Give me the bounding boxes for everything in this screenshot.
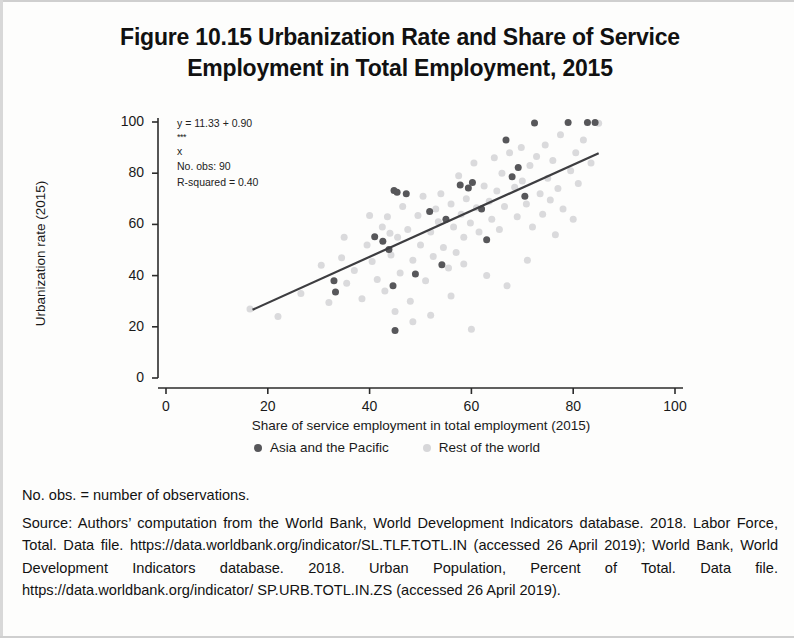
chart-container: Urbanization rate (2015) Share of servic… [0, 96, 794, 486]
data-point [445, 264, 452, 271]
data-point [427, 312, 434, 319]
regression-equation-suffix: x [177, 144, 258, 159]
data-point [325, 299, 332, 306]
data-point [570, 216, 577, 223]
data-point [417, 241, 424, 248]
data-point [409, 318, 416, 325]
data-point [588, 159, 595, 166]
data-point [483, 236, 490, 243]
x-tick-label: 80 [553, 398, 593, 414]
data-point [392, 308, 399, 315]
observations-count: No. obs: 90 [177, 159, 258, 174]
data-point [390, 282, 397, 289]
data-point [318, 262, 325, 269]
data-point [565, 119, 572, 126]
data-point [422, 277, 429, 284]
regression-equation: y = 11.33 + 0.90***x [177, 116, 258, 159]
data-point [420, 193, 427, 200]
data-point [519, 177, 526, 184]
data-point [386, 230, 393, 237]
data-point [403, 190, 410, 197]
data-point [580, 136, 587, 143]
data-point [509, 173, 516, 180]
data-point [488, 216, 495, 223]
abbreviation-note: No. obs. = number of observations. [22, 484, 778, 506]
data-point [414, 212, 421, 219]
y-tick-label: 60 [104, 215, 144, 231]
source-note: Source: Authors’ computation from the Wo… [22, 512, 778, 601]
data-point [297, 290, 304, 297]
data-point [409, 257, 416, 264]
data-point [448, 200, 455, 207]
data-point [560, 206, 567, 213]
top-divider [0, 0, 794, 2]
data-point [379, 238, 386, 245]
data-point [524, 257, 531, 264]
chart-legend: Asia and the PacificRest of the world [0, 440, 794, 455]
data-point [463, 195, 470, 202]
legend-marker-icon [254, 444, 262, 452]
data-point [432, 206, 439, 213]
figure-title: Figure 10.15 Urbanization Rate and Share… [60, 22, 740, 84]
y-tick-label: 40 [104, 267, 144, 283]
data-point [498, 170, 505, 177]
data-point [526, 162, 533, 169]
legend-label: Asia and the Pacific [270, 440, 389, 455]
data-point [440, 244, 447, 251]
x-axis-title: Share of service employment in total emp… [166, 418, 676, 433]
regression-equation-prefix: y = 11.33 + 0.90 [177, 116, 258, 131]
data-point [338, 254, 345, 261]
data-point [379, 223, 386, 230]
x-tick-label: 0 [146, 398, 186, 414]
data-point [506, 149, 513, 156]
data-point [521, 193, 528, 200]
data-point [515, 164, 522, 171]
data-point [426, 208, 433, 215]
data-point [332, 288, 339, 295]
y-tick-label: 0 [104, 369, 144, 385]
legend-item[interactable]: Rest of the world [423, 440, 540, 455]
data-point [539, 211, 546, 218]
data-point [549, 157, 556, 164]
data-point [343, 280, 350, 287]
data-point [450, 223, 457, 230]
data-point [448, 293, 455, 300]
data-point [412, 271, 419, 278]
data-point [503, 136, 510, 143]
data-point [364, 241, 371, 248]
regression-trendline [253, 153, 599, 310]
y-axis-title: Urbanization rate (2015) [33, 154, 48, 354]
x-tick-label: 60 [451, 398, 491, 414]
data-point [381, 287, 388, 294]
data-point [529, 223, 536, 230]
data-point [369, 258, 376, 265]
data-point [392, 327, 399, 334]
data-point [274, 313, 281, 320]
data-point [547, 197, 554, 204]
x-tick-label: 40 [350, 398, 390, 414]
data-point [438, 261, 445, 268]
legend-label: Rest of the world [439, 440, 540, 455]
data-point [575, 180, 582, 187]
data-point [341, 234, 348, 241]
data-point [523, 200, 530, 207]
data-point [501, 203, 508, 210]
data-point [404, 226, 411, 233]
data-point [518, 144, 525, 151]
data-point [554, 185, 561, 192]
data-point [468, 326, 475, 333]
data-point [399, 203, 406, 210]
data-point [504, 282, 511, 289]
data-point [476, 229, 483, 236]
data-point [394, 234, 401, 241]
data-point [531, 120, 538, 127]
data-point [514, 213, 521, 220]
r-squared-value: R-squared = 0.40 [177, 175, 258, 190]
data-point [358, 295, 365, 302]
data-point [430, 253, 437, 260]
figure-title-line-2: Employment in Total Employment, 2015 [60, 53, 740, 84]
data-point [493, 188, 500, 195]
data-point [470, 159, 477, 166]
data-point [467, 220, 474, 227]
legend-item[interactable]: Asia and the Pacific [254, 440, 389, 455]
